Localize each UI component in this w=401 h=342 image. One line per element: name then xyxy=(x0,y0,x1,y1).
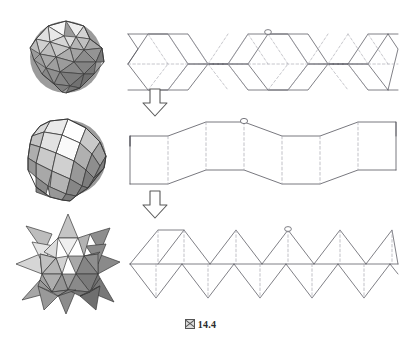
figure-row-2 xyxy=(0,112,401,204)
page-top-bleed-text xyxy=(6,0,395,7)
figure-row-3 xyxy=(0,212,401,316)
net-marker-circle xyxy=(240,118,247,123)
solid-pentakis-dodecahedron xyxy=(14,12,126,102)
net-spiked-triangle-strip xyxy=(126,212,401,316)
figure-row-1 xyxy=(0,12,401,102)
solid-rhombic-triacontahedron xyxy=(14,112,126,204)
net-marker-circle xyxy=(285,227,292,232)
solid-stellated-polyhedron xyxy=(14,212,126,316)
figure-page: 14.4 xyxy=(0,0,401,342)
missing-glyph-icon xyxy=(185,319,195,329)
net-marker-circle xyxy=(265,30,272,35)
figure-number: 14.4 xyxy=(198,319,217,330)
figure-caption: 14.4 xyxy=(0,319,401,330)
